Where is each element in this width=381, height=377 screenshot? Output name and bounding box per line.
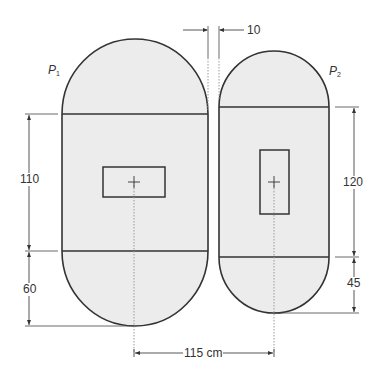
gap-dimension-label: 10 [246,24,261,37]
p2-label-subscript: 2 [337,71,341,78]
diagram-drawing [0,0,381,377]
p1-band-arrow-top [27,115,31,120]
center-dist-arrow-right [268,351,273,355]
p2-band-dimension-label: 120 [342,176,364,189]
p2-cap-dimension-label: 45 [346,277,361,290]
diagram-canvas: P1 P2 10 110 60 120 45 115 cm [0,0,381,377]
center-distance-label: 115 cm [183,347,223,360]
p1-band-dimension-label: 110 [19,173,40,186]
p2-band-arrow-top [352,108,356,113]
p2-cap-arrow-bottom [352,307,356,312]
p1-cap-arrow-top [27,252,31,257]
p1-cap-dimension-label: 60 [22,283,37,296]
gap-arrowhead-left [203,28,208,32]
p2-band-arrow-bottom [352,251,356,256]
center-dist-arrow-left [135,351,140,355]
p1-label-subscript: 1 [56,70,60,77]
p2-label: P2 [329,64,341,78]
p2-cap-arrow-top [352,258,356,263]
p1-band-arrow-bottom [27,245,31,250]
p1-label: P1 [48,63,60,77]
gap-arrowhead-right [219,28,224,32]
p1-label-text: P [48,63,56,77]
p1-cap-arrow-bottom [27,320,31,325]
p2-label-text: P [329,64,337,78]
